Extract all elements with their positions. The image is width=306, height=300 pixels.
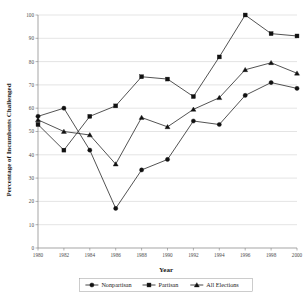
data-point [191, 95, 195, 99]
data-point [166, 77, 170, 81]
x-tick-label: 1996 [240, 252, 251, 258]
legend-circle-icon [90, 283, 94, 287]
x-tick-label: 1998 [266, 252, 277, 258]
data-point [165, 157, 169, 161]
data-point [191, 119, 195, 123]
y-tick-label: 10 [29, 222, 35, 228]
x-tick-label: 1988 [136, 252, 147, 258]
data-point [88, 148, 92, 152]
data-point [295, 86, 299, 90]
x-tick-label: 1990 [162, 252, 173, 258]
x-axis-tick-labels: 1980198219841986198819901992199419961998… [33, 252, 303, 258]
y-tick-label: 30 [29, 175, 35, 181]
data-point [217, 55, 221, 59]
data-point [36, 117, 41, 121]
data-point [88, 114, 92, 118]
x-tick-label: 1992 [188, 252, 199, 258]
data-point [36, 123, 40, 127]
y-axis-tick-marks [36, 15, 39, 248]
y-axis-tick-labels: 0102030405060708090100 [26, 12, 34, 251]
series-partisan [36, 13, 299, 152]
x-tick-label: 1980 [33, 252, 44, 258]
y-tick-label: 20 [29, 198, 35, 204]
y-tick-label: 0 [31, 245, 34, 251]
x-tick-label: 1984 [85, 252, 96, 258]
data-point [114, 104, 118, 108]
data-point [140, 168, 144, 172]
legend-item-label: Partisan [159, 281, 179, 288]
series-nonpartisan [36, 80, 299, 210]
x-tick-label: 1982 [59, 252, 70, 258]
series-line [38, 83, 297, 209]
data-point [191, 107, 196, 111]
data-series [36, 13, 300, 210]
data-point [269, 60, 274, 64]
y-tick-label: 70 [29, 82, 35, 88]
x-axis-title: Year [159, 266, 173, 274]
data-point [139, 115, 144, 119]
data-point [269, 80, 273, 84]
x-axis-tick-marks [38, 248, 297, 251]
data-point [295, 34, 299, 38]
x-tick-label: 1994 [214, 252, 225, 258]
data-point [217, 122, 221, 126]
y-tick-label: 40 [29, 152, 35, 158]
y-tick-label: 100 [26, 12, 34, 18]
data-point [140, 75, 144, 79]
series-all-elections [36, 60, 300, 166]
y-tick-label: 80 [29, 59, 35, 65]
y-axis-title: Percentage of Incumbents Challenged [5, 83, 13, 196]
chart-legend: NonpartisanPartisanAll Elections [79, 279, 252, 292]
legend-item-label: Nonpartisan [101, 281, 131, 288]
data-point [243, 13, 247, 17]
data-point [269, 32, 273, 36]
data-point [243, 93, 247, 97]
line-chart: 0102030405060708090100 19801982198419861… [0, 0, 306, 300]
y-tick-label: 90 [29, 35, 35, 41]
data-point [62, 148, 66, 152]
chart-canvas: 0102030405060708090100 19801982198419861… [0, 0, 306, 300]
x-tick-label: 1986 [111, 252, 122, 258]
data-point [62, 106, 66, 110]
y-tick-label: 50 [29, 128, 35, 134]
x-tick-label: 2000 [292, 252, 303, 258]
legend-square-icon [147, 283, 151, 287]
legend-item-label: All Elections [206, 281, 239, 288]
y-tick-label: 60 [29, 105, 35, 111]
data-point [114, 206, 118, 210]
gridlines [38, 15, 297, 225]
data-point [295, 71, 300, 75]
